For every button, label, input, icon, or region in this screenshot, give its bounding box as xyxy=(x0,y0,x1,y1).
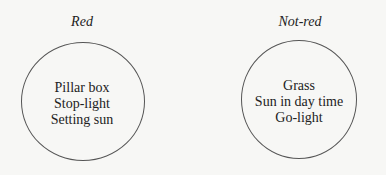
item: Setting sun xyxy=(17,112,147,128)
item: Go-light xyxy=(234,110,364,126)
items-not-red: Grass Sun in day time Go-light xyxy=(234,78,364,126)
item: Grass xyxy=(234,78,364,94)
item: Sun in day time xyxy=(234,94,364,110)
set-label-not-red: Not-red xyxy=(240,14,360,30)
items-red: Pillar box Stop-light Setting sun xyxy=(17,80,147,128)
set-label-red: Red xyxy=(22,14,142,30)
item: Stop-light xyxy=(17,96,147,112)
item: Pillar box xyxy=(17,80,147,96)
